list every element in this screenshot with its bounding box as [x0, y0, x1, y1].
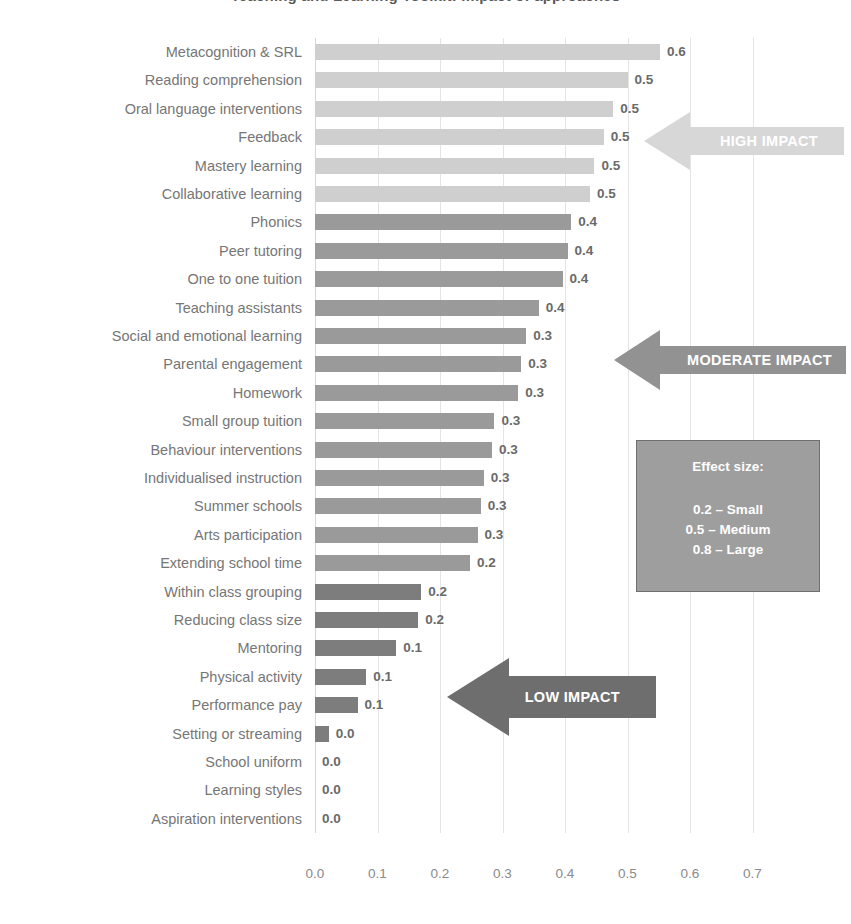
- bar: [315, 442, 492, 458]
- category-label: Individualised instruction: [0, 464, 302, 492]
- bar-value-label: 0.0: [322, 748, 341, 776]
- bar-value-label: 0.3: [491, 464, 510, 492]
- category-label: Homework: [0, 379, 302, 407]
- bar: [315, 44, 660, 60]
- bar-value-label: 0.1: [403, 634, 422, 662]
- category-label: Learning styles: [0, 776, 302, 804]
- bar: [315, 697, 358, 713]
- bar-value-label: 0.0: [336, 720, 355, 748]
- bar-value-label: 0.3: [488, 492, 507, 520]
- legend-line-medium: 0.5 – Medium: [637, 520, 819, 540]
- annotation-low-impact: LOW IMPACT: [447, 655, 656, 739]
- bar-value-label: 0.0: [322, 776, 341, 804]
- bar-value-label: 0.5: [597, 180, 616, 208]
- x-axis-tick: 0.4: [556, 866, 575, 881]
- category-label: Performance pay: [0, 691, 302, 719]
- x-axis: 0.00.10.20.30.40.50.60.7: [0, 866, 851, 890]
- bar: [315, 356, 521, 372]
- bar-row: Phonics0.4: [0, 208, 851, 236]
- category-label: Extending school time: [0, 549, 302, 577]
- category-label: Mastery learning: [0, 152, 302, 180]
- bar: [315, 640, 396, 656]
- legend-line-large: 0.8 – Large: [637, 540, 819, 560]
- category-label: Aspiration interventions: [0, 805, 302, 833]
- legend-title: Effect size:: [637, 459, 819, 474]
- bar: [315, 328, 526, 344]
- bar-value-label: 0.3: [533, 322, 552, 350]
- category-label: Reducing class size: [0, 606, 302, 634]
- bar: [315, 584, 421, 600]
- bar: [315, 555, 470, 571]
- bar: [315, 413, 494, 429]
- bar-value-label: 0.6: [667, 38, 686, 66]
- category-label: Arts participation: [0, 521, 302, 549]
- chart-title: Teaching and Learning Toolkit: impact of…: [0, 0, 851, 4]
- bar: [315, 129, 604, 145]
- annotation-high-impact-label: HIGH IMPACT: [720, 133, 844, 149]
- bar-row: Peer tutoring0.4: [0, 237, 851, 265]
- annotation-high-impact: HIGH IMPACT: [644, 110, 844, 172]
- bar-row: Collaborative learning0.5: [0, 180, 851, 208]
- category-label: Social and emotional learning: [0, 322, 302, 350]
- bar-row: Small group tuition0.3: [0, 407, 851, 435]
- bar-value-label: 0.4: [570, 265, 589, 293]
- x-axis-tick: 0.5: [618, 866, 637, 881]
- bar: [315, 527, 478, 543]
- legend-line-small: 0.2 – Small: [637, 500, 819, 520]
- legend-lines: 0.2 – Small 0.5 – Medium 0.8 – Large: [637, 500, 819, 560]
- bar: [315, 186, 590, 202]
- bar: [315, 243, 568, 259]
- bar-value-label: 0.2: [425, 606, 444, 634]
- bar: [315, 498, 481, 514]
- category-label: Small group tuition: [0, 407, 302, 435]
- bar-row: Mentoring0.1: [0, 634, 851, 662]
- bar-value-label: 0.2: [477, 549, 496, 577]
- category-label: Metacognition & SRL: [0, 38, 302, 66]
- bar: [315, 470, 484, 486]
- effect-size-legend: Effect size: 0.2 – Small 0.5 – Medium 0.…: [636, 440, 820, 592]
- category-label: Mentoring: [0, 634, 302, 662]
- category-label: Physical activity: [0, 663, 302, 691]
- category-label: Collaborative learning: [0, 180, 302, 208]
- bar-value-label: 0.5: [620, 95, 639, 123]
- bar: [315, 158, 594, 174]
- bar-value-label: 0.5: [635, 66, 654, 94]
- bar-value-label: 0.3: [525, 379, 544, 407]
- bar: [315, 612, 418, 628]
- bar-value-label: 0.4: [546, 294, 565, 322]
- bar-row: Performance pay0.1: [0, 691, 851, 719]
- annotation-moderate-impact: MODERATE IMPACT: [614, 328, 846, 392]
- bar: [315, 101, 613, 117]
- category-label: Feedback: [0, 123, 302, 151]
- bar-value-label: 0.3: [501, 407, 520, 435]
- category-label: School uniform: [0, 748, 302, 776]
- bar: [315, 669, 366, 685]
- x-axis-tick: 0.3: [493, 866, 512, 881]
- bar-value-label: 0.1: [373, 663, 392, 691]
- bar-row: Reducing class size0.2: [0, 606, 851, 634]
- bar-value-label: 0.5: [611, 123, 630, 151]
- category-label: One to one tuition: [0, 265, 302, 293]
- x-axis-tick: 0.2: [431, 866, 450, 881]
- bar: [315, 72, 628, 88]
- category-label: Oral language interventions: [0, 95, 302, 123]
- bar-row: School uniform0.0: [0, 748, 851, 776]
- bar-row: Setting or streaming0.0: [0, 720, 851, 748]
- category-label: Behaviour interventions: [0, 436, 302, 464]
- category-label: Phonics: [0, 208, 302, 236]
- bar-value-label: 0.0: [322, 805, 341, 833]
- category-label: Summer schools: [0, 492, 302, 520]
- bar: [315, 214, 571, 230]
- annotation-low-impact-label: LOW IMPACT: [525, 689, 656, 705]
- bar: [315, 726, 329, 742]
- bar-row: Physical activity0.1: [0, 663, 851, 691]
- x-axis-tick: 0.1: [368, 866, 387, 881]
- x-axis-tick: 0.6: [681, 866, 700, 881]
- category-label: Teaching assistants: [0, 294, 302, 322]
- bar-row: Teaching assistants0.4: [0, 294, 851, 322]
- category-label: Setting or streaming: [0, 720, 302, 748]
- bar: [315, 271, 563, 287]
- bar-value-label: 0.2: [428, 578, 447, 606]
- bar-row: One to one tuition0.4: [0, 265, 851, 293]
- category-label: Peer tutoring: [0, 237, 302, 265]
